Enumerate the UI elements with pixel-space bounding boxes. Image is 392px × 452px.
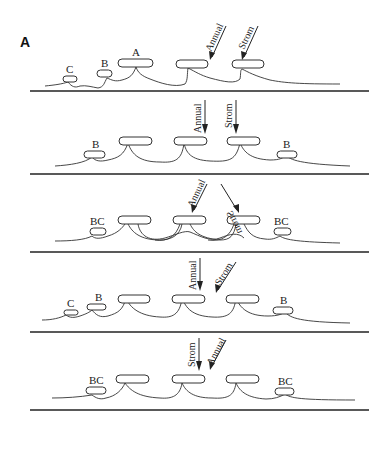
strom-label: Strom (212, 260, 234, 287)
annual-label: Annual (187, 260, 198, 290)
switch-3 (226, 375, 259, 383)
switch-1 (118, 216, 151, 224)
label-b: B (95, 291, 102, 303)
switch-bc-right (274, 228, 291, 235)
panel-4: C B B Annual Strom (30, 258, 369, 332)
switch-b-right (277, 151, 297, 158)
strom-label: Strom (186, 342, 197, 367)
strom-label: Strom (223, 103, 234, 128)
switch-loop-diagram: A C B A Annual Strom B B Annual (0, 0, 392, 452)
switch-2 (172, 295, 205, 303)
switch-bc-left (90, 228, 106, 235)
switch-bc-right (275, 388, 294, 395)
switch-1 (119, 137, 152, 145)
switch-2 (174, 137, 207, 145)
label-c: C (66, 63, 73, 75)
annual-label: Annual (203, 21, 226, 53)
annual-label: Annual (185, 177, 208, 209)
switch-b-left (87, 304, 106, 310)
label-bc: BC (90, 215, 105, 227)
switch-bc-left (86, 387, 106, 394)
annual-label: Annual (204, 336, 228, 367)
panel-3: BC BC Annual Strom (30, 177, 369, 252)
switch-2 (176, 60, 208, 68)
switch-2 (173, 216, 206, 224)
switch-b-left (84, 151, 105, 158)
switch-c (64, 310, 78, 315)
panel-1: C B A Annual Strom (30, 21, 369, 91)
switch-1 (116, 375, 149, 383)
switch-b-right (273, 307, 293, 314)
label-bc: BC (89, 374, 104, 386)
annual-label: Annual (192, 103, 203, 133)
label-b: B (280, 294, 287, 306)
label-b: B (92, 138, 99, 150)
switch-b (97, 70, 112, 77)
label-c: C (67, 297, 74, 309)
switch-3 (232, 60, 264, 68)
label-bc: BC (278, 375, 293, 387)
strand (45, 67, 340, 88)
switch-3 (226, 295, 259, 303)
switch-c (63, 76, 77, 82)
label-b: B (283, 138, 290, 150)
panel-5: BC BC Strom Annual (30, 336, 369, 410)
switch-a (118, 59, 153, 67)
label-b: B (101, 57, 108, 69)
label-a: A (132, 46, 140, 58)
switch-1 (118, 295, 150, 303)
label-bc: BC (274, 215, 289, 227)
panel-letter: A (20, 34, 30, 50)
switch-2 (172, 375, 205, 383)
switch-3 (227, 137, 260, 145)
panel-2: B B Annual Strom (30, 100, 369, 174)
